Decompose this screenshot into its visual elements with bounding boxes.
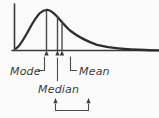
bracket-right-arrowhead: [86, 98, 90, 103]
mean-leader-line: [71, 57, 77, 71]
density-curve: [16, 10, 159, 51]
spread-bracket: [56, 104, 89, 111]
distribution-sketch-svg: Mode Mean Median: [0, 0, 159, 118]
distribution-curve-group: [16, 10, 159, 51]
mode-label: Mode: [10, 65, 41, 78]
leader-lines-group: [39, 57, 77, 81]
axes-group: [12, 4, 159, 51]
text-labels-group: Mode Mean Median: [10, 65, 110, 96]
spread-bracket-group: [53, 98, 90, 111]
bracket-left-arrowhead: [53, 98, 57, 103]
median-label: Median: [38, 83, 79, 96]
mean-label: Mean: [79, 65, 110, 78]
skewed-distribution-figure: Mode Mean Median: [0, 0, 159, 118]
marker-lines-group: [47, 11, 63, 51]
